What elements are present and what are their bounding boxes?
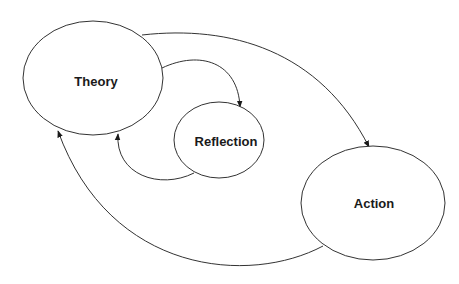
node-reflection-label: Reflection: [195, 134, 258, 149]
node-action: Action: [301, 146, 445, 260]
node-reflection: Reflection: [174, 102, 264, 178]
edge-theory-to-reflection: [162, 60, 240, 107]
node-action-label: Action: [354, 196, 395, 211]
node-theory: Theory: [23, 21, 163, 135]
cycle-diagram: Theory Reflection Action: [0, 0, 459, 284]
node-theory-label: Theory: [74, 74, 118, 89]
